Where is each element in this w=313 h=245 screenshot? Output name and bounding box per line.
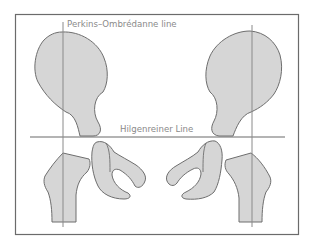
- perkins-line-label: Perkins–Ombrédanne line: [67, 19, 177, 29]
- hip-radiograph-diagram: Perkins–Ombrédanne line Hilgenreiner Lin…: [0, 0, 313, 245]
- hilgenreiner-line-label: Hilgenreiner Line: [120, 124, 193, 134]
